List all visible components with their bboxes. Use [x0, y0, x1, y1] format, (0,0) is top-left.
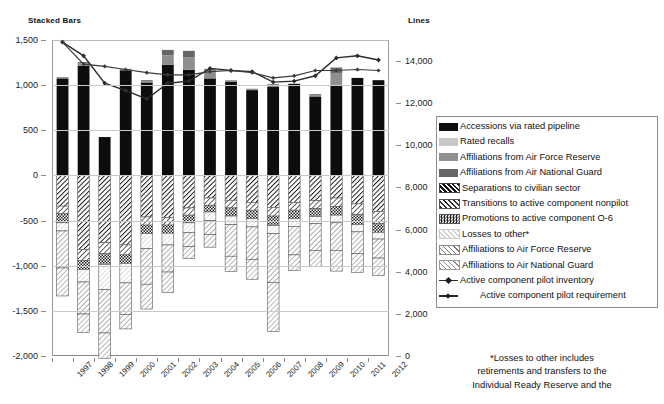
gridline — [52, 130, 389, 131]
chart-legend: Accessions via rated pipelineRated recal… — [436, 116, 658, 308]
x-tick — [199, 358, 200, 362]
x-tick — [326, 358, 327, 362]
legend-swatch-icon — [439, 123, 458, 131]
legend-label: Active component pilot requirement — [460, 291, 626, 300]
y-tick-label-right: 6,000 — [405, 225, 428, 235]
x-tick-label: 2012 — [391, 360, 410, 379]
y-tick-right — [396, 314, 401, 315]
x-tick-label: 2008 — [306, 360, 325, 379]
y-tick-label-right: 10,000 — [405, 140, 433, 150]
x-tick-label: 2004 — [222, 360, 241, 379]
legend-item-aff_to_ang: Affiliations to Air National Guard — [439, 258, 655, 273]
gridline — [52, 175, 389, 176]
y-tick-right — [396, 356, 401, 357]
legend-label: Promotions to active component O-6 — [462, 214, 613, 223]
x-tick-label: 2001 — [159, 360, 178, 379]
footnote-line-1: *Losses to other includes — [424, 352, 660, 365]
y-tick-label-left: -500 — [20, 216, 38, 226]
x-tick-label: 2003 — [201, 360, 220, 379]
line-marker — [208, 69, 212, 73]
legend-item-aff_to_afr: Affiliations to Air Force Reserve — [439, 242, 655, 257]
legend-swatch-icon — [439, 183, 460, 193]
gridline — [52, 266, 389, 267]
line-marker — [376, 68, 380, 72]
legend-item-promotions: Promotions to active component O-6 — [439, 211, 655, 226]
legend-item-losses_other: Losses to other* — [439, 227, 655, 242]
legend-label: Separations to civilian sector — [462, 184, 580, 193]
x-tick-label: 2010 — [349, 360, 368, 379]
y-tick-label-right: 4,000 — [405, 267, 428, 277]
legend-line-marker-icon — [439, 292, 458, 300]
legend-item-inventory: Active component pilot inventory — [439, 273, 655, 288]
legend-swatch-icon — [439, 260, 460, 270]
line-marker — [292, 74, 296, 78]
y-tick-label-left: -2,000 — [12, 351, 38, 361]
line-marker — [313, 68, 317, 72]
x-tick — [221, 358, 222, 362]
x-tick-label: 1997 — [75, 360, 94, 379]
gridline — [52, 85, 389, 86]
footnote-line-3: Individual Ready Reserve and the — [424, 379, 660, 392]
y-tick-label-left: 1,500 — [15, 35, 38, 45]
y-tick-right — [396, 61, 401, 62]
lines-layer — [52, 40, 389, 356]
y-tick-label-left: 500 — [23, 125, 38, 135]
line-marker — [271, 76, 275, 80]
y-tick-right — [396, 230, 401, 231]
x-tick — [178, 358, 179, 362]
x-tick-label: 2011 — [369, 360, 388, 379]
line-marker — [355, 53, 360, 58]
legend-item-recalls: Rated recalls — [439, 134, 655, 149]
y-tick-label-left: 0 — [33, 170, 38, 180]
y-tick-label-right: 0 — [405, 351, 410, 361]
y-tick-label-left: -1,000 — [12, 261, 38, 271]
line-marker — [123, 88, 128, 93]
line-marker — [376, 58, 381, 63]
legend-label: Affiliations to Air National Guard — [462, 261, 593, 270]
x-tick — [157, 358, 158, 362]
plot-area — [52, 40, 389, 356]
y-tick-left — [41, 356, 46, 357]
x-tick-label: 2000 — [138, 360, 157, 379]
x-tick-label: 2006 — [264, 360, 283, 379]
y-tick-label-right: 12,000 — [405, 98, 433, 108]
legend-label: Affiliations from Air National Guard — [460, 168, 602, 177]
y-tick-left — [41, 130, 46, 131]
legend-swatch-icon — [439, 229, 460, 239]
legend-swatch-icon — [439, 153, 458, 161]
legend-item-aff_from_afr: Affiliations from Air Force Reserve — [439, 150, 655, 165]
x-tick-label: 1998 — [96, 360, 115, 379]
x-tick-label: 2002 — [180, 360, 199, 379]
x-tick — [347, 358, 348, 362]
x-axis-labels: 1997199819992000200120022003200420052006… — [52, 358, 389, 402]
y-tick-left — [41, 221, 46, 222]
legend-label: Active component pilot inventory — [460, 276, 594, 285]
line-marker — [334, 68, 338, 72]
y-tick-left — [41, 311, 46, 312]
gridline — [52, 311, 389, 312]
legend-label: Affiliations to Air Force Reserve — [462, 245, 592, 254]
line-marker — [166, 73, 170, 77]
legend-label: Accessions via rated pipeline — [460, 122, 580, 131]
x-tick — [73, 358, 74, 362]
line-marker — [103, 64, 107, 68]
x-tick — [305, 358, 306, 362]
line-marker — [271, 80, 276, 85]
y-tick-label-right: 14,000 — [405, 56, 433, 66]
x-tick — [284, 358, 285, 362]
line-marker — [292, 79, 297, 84]
secondary-axis-title-left: Stacked Bars — [28, 16, 81, 25]
line-marker — [124, 67, 128, 71]
legend-item-transitions: Transitions to active component nonpilot — [439, 196, 655, 211]
x-tick — [52, 358, 53, 362]
y-tick-left — [41, 85, 46, 86]
legend-swatch-icon — [439, 245, 460, 255]
x-tick — [242, 358, 243, 362]
legend-label: Rated recalls — [460, 137, 514, 146]
y-tick-label-right: 8,000 — [405, 182, 428, 192]
legend-item-requirement: Active component pilot requirement — [439, 288, 655, 303]
x-tick-label: 1999 — [117, 360, 136, 379]
y-tick-right — [396, 272, 401, 273]
legend-swatch-icon — [439, 138, 458, 146]
legend-line-marker-icon — [439, 277, 458, 285]
